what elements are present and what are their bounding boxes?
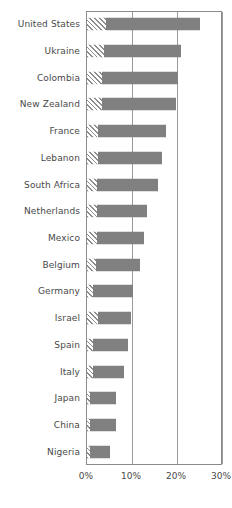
- category-label: New Zealand: [0, 99, 80, 110]
- bar-row: United States: [0, 11, 232, 38]
- bar-segment-hatched: [87, 71, 102, 84]
- category-label: Ukraine: [0, 46, 80, 57]
- bar-segment-hatched: [87, 258, 96, 271]
- bar-row: China: [0, 412, 232, 439]
- bar-segment-hatched: [87, 231, 97, 244]
- bar-row: Germany: [0, 278, 232, 305]
- category-label: Colombia: [0, 72, 80, 83]
- bar-segment-hatched: [87, 45, 104, 58]
- category-label: Japan: [0, 393, 80, 404]
- bar: [87, 312, 131, 325]
- category-label: Belgium: [0, 259, 80, 270]
- category-label: Spain: [0, 339, 80, 350]
- bar-row: Mexico: [0, 225, 232, 252]
- bar-rows: United StatesUkraineColombiaNew ZealandF…: [0, 11, 232, 465]
- bar-row: Israel: [0, 305, 232, 332]
- category-label: Italy: [0, 366, 80, 377]
- bar-segment-hatched: [87, 312, 98, 325]
- bar: [87, 258, 140, 271]
- bar: [87, 231, 144, 244]
- bar: [87, 418, 116, 431]
- bar-segment-hatched: [87, 98, 102, 111]
- bar-row: Netherlands: [0, 198, 232, 225]
- bar: [87, 285, 133, 298]
- x-tick-label: 20%: [156, 470, 196, 482]
- category-label: France: [0, 126, 80, 137]
- bar-segment-solid: [97, 231, 144, 244]
- bar-row: Belgium: [0, 251, 232, 278]
- bar-segment-hatched: [87, 125, 98, 138]
- category-label: Mexico: [0, 232, 80, 243]
- bar-row: Italy: [0, 358, 232, 385]
- bar-segment-solid: [102, 98, 176, 111]
- bar: [87, 445, 110, 458]
- bar-row: France: [0, 118, 232, 145]
- x-tick-label: 0%: [66, 470, 106, 482]
- bar: [87, 151, 162, 164]
- bar-segment-hatched: [87, 151, 98, 164]
- bar-row: Japan: [0, 385, 232, 412]
- bar-segment-solid: [90, 392, 116, 405]
- bar-segment-solid: [106, 18, 200, 31]
- bar-segment-solid: [98, 125, 166, 138]
- bar-segment-solid: [102, 71, 178, 84]
- bar: [87, 125, 166, 138]
- category-label: China: [0, 419, 80, 430]
- category-label: Germany: [0, 286, 80, 297]
- bar-segment-solid: [104, 45, 181, 58]
- bar-segment-solid: [98, 151, 162, 164]
- bar-segment-hatched: [87, 205, 97, 218]
- bar: [87, 18, 200, 31]
- category-label: South Africa: [0, 179, 80, 190]
- bar: [87, 178, 158, 191]
- bar-segment-hatched: [87, 178, 97, 191]
- bar-row: Colombia: [0, 64, 232, 91]
- category-label: Israel: [0, 313, 80, 324]
- bar-segment-solid: [90, 418, 116, 431]
- bar-segment-solid: [98, 312, 131, 325]
- bar-row: New Zealand: [0, 91, 232, 118]
- category-label: Lebanon: [0, 152, 80, 163]
- bar: [87, 98, 176, 111]
- bar: [87, 71, 178, 84]
- bar-segment-solid: [90, 445, 110, 458]
- bar: [87, 205, 147, 218]
- bar: [87, 45, 181, 58]
- bar: [87, 392, 116, 405]
- bar-segment-solid: [97, 178, 158, 191]
- bar-segment-solid: [96, 258, 140, 271]
- category-label: Netherlands: [0, 206, 80, 217]
- bar-row: South Africa: [0, 171, 232, 198]
- bar-segment-hatched: [87, 18, 106, 31]
- x-tick-label: 10%: [111, 470, 151, 482]
- bar-row: Spain: [0, 331, 232, 358]
- bar-row: Ukraine: [0, 38, 232, 65]
- bar-row: Nigeria: [0, 438, 232, 465]
- x-axis-ticks: 0%10%20%30%: [0, 470, 232, 486]
- bar-segment-solid: [93, 365, 125, 378]
- category-label: United States: [0, 19, 80, 30]
- bar-chart: United StatesUkraineColombiaNew ZealandF…: [0, 0, 232, 508]
- bar-row: Lebanon: [0, 145, 232, 172]
- category-label: Nigeria: [0, 446, 80, 457]
- bar: [87, 365, 124, 378]
- bar-segment-solid: [93, 285, 133, 298]
- bar-segment-solid: [93, 338, 128, 351]
- bar-segment-solid: [97, 205, 147, 218]
- bar: [87, 338, 128, 351]
- x-tick-label: 30%: [201, 470, 232, 482]
